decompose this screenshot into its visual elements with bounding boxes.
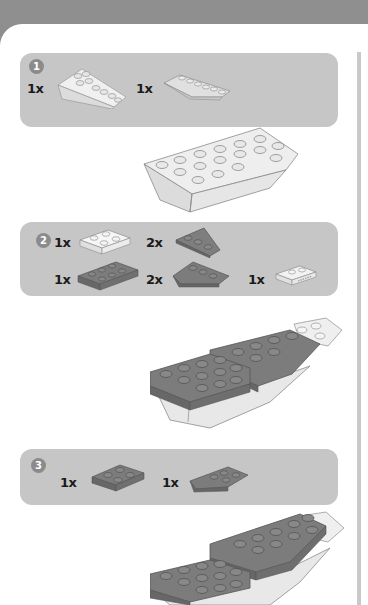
step-number-badge: 3 (31, 458, 46, 473)
part-quantity: 1x (27, 81, 43, 96)
part-quantity: 2x (146, 235, 162, 250)
part-quantity: 1x (60, 475, 76, 490)
light-gray-inverted-slope-wedge-icon (56, 63, 128, 109)
page-margin-rule (357, 52, 361, 605)
page-header-band (0, 0, 368, 26)
step-2-assembly-model (150, 310, 350, 434)
light-gray-wedge-plate-icon (162, 67, 234, 101)
step-3-assembly-model (150, 508, 356, 605)
step-number-badge: 1 (29, 59, 44, 74)
white-2x2-plate-icon (78, 226, 132, 256)
part-quantity: 1x (162, 475, 178, 490)
white-plate-with-handle-icon (274, 262, 318, 288)
part-quantity: 1x (136, 81, 152, 96)
step-number-badge: 2 (36, 233, 51, 248)
part-quantity: 1x (54, 235, 70, 250)
step-2-parts-panel: 2 1x 2x 1x (20, 222, 338, 296)
dark-gray-2x4-plate-icon (76, 258, 140, 292)
step-1-parts-panel: 1 1x 1x (20, 53, 338, 127)
step-1-assembly-model (140, 124, 300, 216)
dark-gray-wedge-plate-left-icon (171, 258, 231, 288)
part-quantity: 1x (248, 272, 264, 287)
part-quantity: 1x (54, 272, 70, 287)
dark-gray-2x2-plate-icon (90, 461, 146, 493)
dark-gray-wedge-plate-right-icon (174, 224, 224, 258)
part-quantity: 2x (146, 272, 162, 287)
step-3-parts-panel: 3 1x 1x (20, 449, 338, 505)
dark-gray-wedge-plate-icon (188, 463, 250, 493)
